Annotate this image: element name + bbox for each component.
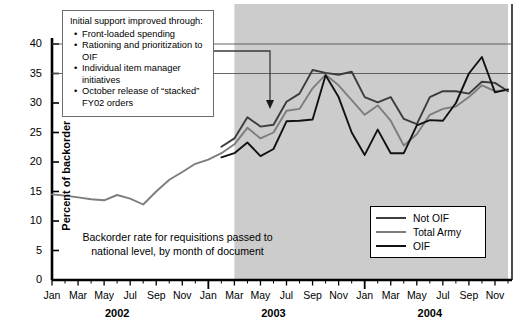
legend-label: Not OIF bbox=[413, 213, 449, 224]
chart-caption: Backorder rate for requisitions passed t… bbox=[70, 230, 285, 258]
annotation-bullet-0: Front-loaded spending bbox=[82, 29, 207, 41]
legend-label: OIF bbox=[413, 241, 430, 252]
y-tick-25: 25 bbox=[16, 126, 42, 138]
y-tick-40: 40 bbox=[16, 37, 42, 49]
annotation-callout-box: Initial support improved through: Front-… bbox=[62, 10, 214, 117]
year-label-2003: 2003 bbox=[248, 307, 298, 319]
chart-legend: Not OIFTotal ArmyOIF bbox=[370, 206, 486, 258]
annotation-bullet-list: Front-loaded spendingRationing and prior… bbox=[70, 29, 207, 110]
legend-item-oif[interactable]: OIF bbox=[376, 239, 480, 253]
legend-swatch-icon bbox=[376, 217, 406, 219]
legend-swatch-icon bbox=[376, 231, 406, 233]
legend-label: Total Army bbox=[413, 227, 461, 238]
annotation-heading: Initial support improved through: bbox=[70, 16, 207, 28]
y-tick-10: 10 bbox=[16, 214, 42, 226]
annotation-bullet-3: October release of “stacked” FY02 orders bbox=[82, 86, 207, 109]
legend-item-total-army[interactable]: Total Army bbox=[376, 225, 480, 239]
y-tick-30: 30 bbox=[16, 96, 42, 108]
legend-item-not-oif[interactable]: Not OIF bbox=[376, 211, 480, 225]
y-tick-5: 5 bbox=[16, 244, 42, 256]
y-tick-35: 35 bbox=[16, 67, 42, 79]
annotation-bullet-1: Rationing and prioritization to OIF bbox=[82, 40, 207, 63]
year-label-2004: 2004 bbox=[405, 307, 455, 319]
y-tick-20: 20 bbox=[16, 155, 42, 167]
legend-swatch-icon bbox=[376, 245, 406, 247]
y-axis-label: Percent of backorder rate bbox=[60, 97, 72, 230]
annotation-bullet-2: Individual item manager initiatives bbox=[82, 63, 207, 86]
x-tick-nov-17: Nov bbox=[480, 289, 510, 301]
year-label-2002: 2002 bbox=[92, 307, 142, 319]
chart-figure: Percent of backorder rate 05101520253035… bbox=[0, 0, 522, 327]
y-tick-15: 15 bbox=[16, 185, 42, 197]
y-tick-0: 0 bbox=[16, 273, 42, 285]
